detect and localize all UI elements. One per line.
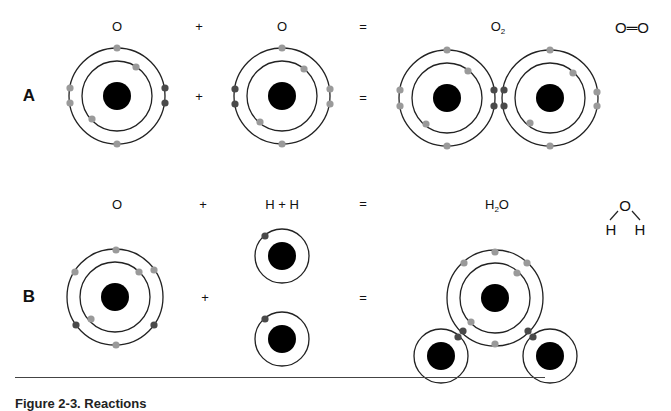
row-a-equals-operator: = xyxy=(359,90,367,105)
figure-caption: Figure 2-3. Reactions xyxy=(15,396,146,411)
caption-divider xyxy=(15,377,545,378)
row-b-product-formula: H2O xyxy=(485,197,509,214)
o2-molecule xyxy=(396,46,600,149)
bond-line-left xyxy=(610,211,618,220)
oxygen-atom-a1 xyxy=(66,44,168,147)
row-a-equals-label: = xyxy=(359,19,367,34)
row-a-structural-formula: O═O xyxy=(615,19,649,36)
row-label-b: B xyxy=(23,287,35,307)
h2o-structure-h-right: H xyxy=(635,221,646,238)
h2o-molecule xyxy=(414,248,577,383)
hydrogen-atom-b1 xyxy=(255,229,309,283)
row-a-plus-operator: + xyxy=(195,89,203,104)
oxygen-atom-b xyxy=(67,246,163,348)
oxygen-atom-a2 xyxy=(231,44,333,147)
row-b-plus-operator: + xyxy=(201,290,209,305)
h2o-structure-o: O xyxy=(619,197,631,214)
row-b-equals-operator: = xyxy=(359,290,367,305)
row-a-product-formula: O2 xyxy=(491,19,506,36)
row-a-reactant-2-label: O xyxy=(277,19,287,34)
row-a-plus-label: + xyxy=(195,19,203,34)
row-b-reactant-2-label: H + H xyxy=(265,197,299,212)
h2o-structure-h-left: H xyxy=(606,221,617,238)
row-a-reactant-1-label: O xyxy=(112,19,122,34)
hydrogen-atom-b2 xyxy=(255,312,309,366)
row-b-reactant-1-label: O xyxy=(112,197,122,212)
bond-line-right xyxy=(632,211,640,220)
row-b-equals-label: = xyxy=(359,196,367,211)
row-label-a: A xyxy=(23,86,35,106)
row-b-plus-label: + xyxy=(199,197,207,212)
